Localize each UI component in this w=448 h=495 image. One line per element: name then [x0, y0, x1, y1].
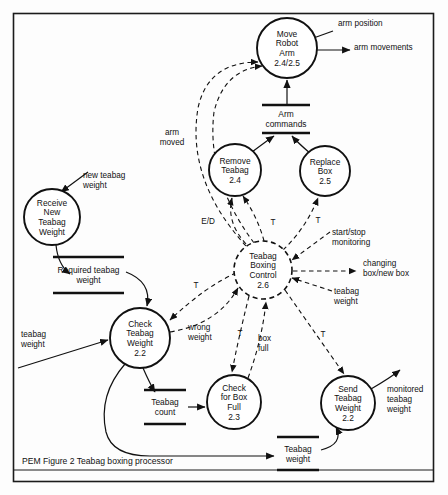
process-label-line: Remove [219, 156, 251, 166]
process-label-line: Send [338, 384, 358, 394]
flow-label-line: start/stop [332, 228, 366, 237]
flow-label-line: new teabag [83, 171, 126, 180]
process-label-line: New [44, 207, 62, 217]
process-label-line: Move [277, 29, 298, 39]
process-label-line: Receive [37, 198, 68, 208]
datastore-arm-commands[interactable]: Armcommands [262, 105, 310, 133]
flow-label-line: full [258, 344, 269, 353]
process-label-line: Teabag [38, 217, 66, 227]
flow-startstop-to-control [292, 232, 330, 260]
flow-label-line: wrong [187, 323, 211, 332]
store-label-line: Required teabag [58, 265, 120, 275]
flow-remove-to-commands [252, 136, 274, 152]
process-check-for-box-full[interactable]: Checkfor BoxFull2.3 [207, 375, 261, 429]
flow-label-t-remove-teabag: T [270, 218, 275, 227]
process-label-line: 2.3 [228, 412, 240, 422]
flow-label-arm-moved: armmoved [160, 128, 185, 147]
flow-label-line: arm movements [354, 43, 413, 52]
process-label-line: Weight [335, 403, 362, 413]
flow-teabagweight-to-control [292, 278, 332, 291]
datastore-teabag-weight-store[interactable]: Teabagweight [277, 437, 319, 470]
flow-label-line: teabag [387, 395, 412, 404]
store-label-line: weight [75, 275, 101, 285]
process-label-line: 2.6 [257, 280, 269, 290]
flow-label-line: teabag [334, 287, 359, 296]
process-label-line: Full [227, 402, 241, 412]
process-label-line: Teabag [249, 251, 277, 261]
process-label-line: Control [250, 270, 277, 280]
flow-label-t-send-teabag: T [320, 330, 325, 339]
flow-t-to-check [170, 273, 236, 320]
process-label-line: Check [222, 383, 247, 393]
flow-label-line: T [315, 216, 320, 225]
figure-caption: PEM Figure 2 Teabag boxing processor [22, 456, 173, 466]
flow-label-line: weight [386, 405, 411, 414]
flow-weightstore-to-send [321, 427, 338, 450]
process-label-line: Robot [276, 38, 299, 48]
flow-label-box-full: boxfull [258, 334, 271, 353]
flow-label-line: T [237, 329, 242, 338]
flow-label-line: monitoring [332, 238, 371, 247]
process-send-teabag-weight[interactable]: SendTeabagWeight2.2 [321, 376, 375, 430]
flow-label-t-box-full: T [237, 329, 242, 338]
flow-label-arm-position: arm position [338, 19, 383, 28]
store-label-line: weight [285, 454, 311, 464]
flow-label-t-check-teabag: T [193, 281, 198, 290]
flow-label-changing-box-new-box: changingbox/new box [363, 259, 409, 278]
flow-label-line: weight [187, 333, 212, 342]
store-label-line: Teabag [151, 397, 179, 407]
process-label-line: for Box [221, 392, 248, 402]
process-move-robot-arm[interactable]: MoveRobotArm2.4/2.5 [257, 18, 317, 78]
store-label-line: count [155, 407, 176, 417]
flow-label-line: weight [20, 340, 45, 349]
process-label-line: Check [128, 319, 153, 329]
process-receive-new-teabag-weight[interactable]: ReceiveNewTeabagWeight [24, 189, 80, 245]
flow-label-start-stop-monitoring: start/stopmonitoring [332, 228, 371, 247]
flow-label-line: weight [333, 297, 358, 306]
process-label-line: 2.4/2.5 [274, 58, 300, 68]
process-label-line: Arm [279, 48, 294, 58]
process-bubbles: MoveRobotArm2.4/2.5ReceiveNewTeabagWeigh… [24, 18, 375, 430]
flow-label-line: E/D [201, 217, 215, 226]
flow-required-to-check [126, 272, 148, 306]
process-remove-teabag[interactable]: RemoveTeabag2.4 [209, 144, 261, 196]
flow-label-teabag-weight-left: teabagweight [20, 330, 46, 349]
process-label-line: Teabag [334, 393, 362, 403]
data-flow-diagram: MoveRobotArm2.4/2.5ReceiveNewTeabagWeigh… [0, 0, 448, 495]
flow-label-teabag-weight-right: teabagweight [333, 287, 359, 306]
flow-label-line: changing [363, 259, 397, 268]
datastore-required-teabag-weight[interactable]: Required teabagweight [53, 257, 124, 293]
process-label-line: 2.5 [319, 176, 331, 186]
process-check-teabag-weight[interactable]: CheckTeabagWeight2.2 [110, 308, 170, 368]
flow-label-e-over-d: E/D [201, 217, 215, 226]
process-label-line: Box [318, 166, 333, 176]
flow-label-line: weight [82, 181, 107, 190]
flow-label-line: T [270, 218, 275, 227]
flow-label-line: box [258, 334, 271, 343]
process-label-line: Replace [310, 157, 341, 167]
flow-label-line: T [320, 330, 325, 339]
figure-canvas: MoveRobotArm2.4/2.5ReceiveNewTeabagWeigh… [0, 0, 448, 495]
process-label-line: Teabag [221, 165, 249, 175]
store-label-line: commands [266, 119, 307, 129]
store-label-line: Teabag [284, 444, 312, 454]
flow-label-arm-movements: arm movements [354, 43, 413, 52]
flow-label-line: moved [160, 138, 185, 147]
store-label-line: Arm [278, 109, 293, 119]
flow-label-wrong-weight: wrongweight [187, 323, 212, 342]
process-label-line: Weight [39, 227, 66, 237]
process-teabag-boxing-control[interactable]: TeabagBoxingControl2.6 [234, 241, 292, 299]
flow-t-to-replace [283, 198, 318, 250]
flow-label-new-teabag-weight: new teabagweight [82, 171, 126, 190]
process-label-line: Teabag [126, 328, 154, 338]
flow-label-t-replace-box: T [315, 216, 320, 225]
process-label-line: Weight [127, 338, 154, 348]
flow-label-line: teabag [21, 330, 46, 339]
flow-label-line: box/new box [363, 269, 409, 278]
process-label-line: 2.4 [229, 175, 241, 185]
flow-label-monitored-teabag-weight: monitoredteabagweight [386, 385, 424, 414]
process-replace-box[interactable]: ReplaceBox2.5 [300, 146, 350, 196]
datastore-teabag-count[interactable]: Teabagcount [144, 390, 186, 424]
process-label-line: 2.2 [342, 413, 354, 423]
flow-label-line: arm [165, 128, 179, 137]
